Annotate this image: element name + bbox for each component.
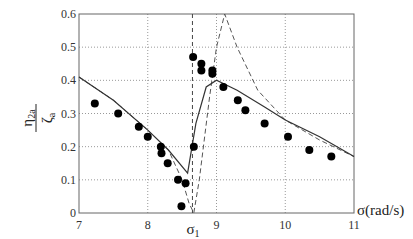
svg-text:0.1: 0.1 bbox=[61, 173, 76, 187]
sigma1-label: σ1 bbox=[186, 221, 199, 239]
svg-text:9: 9 bbox=[214, 218, 220, 232]
svg-text:0.4: 0.4 bbox=[61, 73, 76, 87]
y-axis-label: η2a ζa bbox=[19, 104, 57, 132]
ticks: 789101100.10.20.30.40.50.6 bbox=[61, 7, 360, 232]
svg-text:0.3: 0.3 bbox=[61, 107, 76, 121]
x-axis-label: σ(rad/s) bbox=[357, 202, 404, 219]
svg-text:0.5: 0.5 bbox=[61, 40, 76, 54]
svg-text:η2a: η2a bbox=[19, 109, 37, 127]
svg-text:0: 0 bbox=[70, 206, 76, 220]
svg-text:0.2: 0.2 bbox=[61, 140, 76, 154]
svg-text:8: 8 bbox=[145, 218, 151, 232]
svg-text:10: 10 bbox=[279, 218, 291, 232]
svg-text:0.6: 0.6 bbox=[61, 7, 76, 21]
experiment-points bbox=[91, 53, 336, 210]
svg-text:7: 7 bbox=[76, 218, 82, 232]
svg-text:ζa: ζa bbox=[39, 112, 57, 123]
chart: 789101100.10.20.30.40.50.6 σ(rad/s) η2a … bbox=[0, 0, 413, 239]
svg-text:11: 11 bbox=[348, 218, 360, 232]
